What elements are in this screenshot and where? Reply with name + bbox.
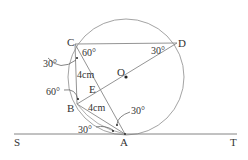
label-c: C — [67, 36, 74, 48]
angle-label-a-lower: 30° — [78, 124, 92, 135]
angle-dot-a-upper — [116, 124, 118, 126]
label-o: O — [117, 66, 125, 78]
geometry-diagram: C D O E B A S T 30° 60° 30° 60° 30° 30° … — [0, 0, 248, 160]
angle-label-c-inner: 60° — [82, 47, 96, 58]
label-a: A — [120, 136, 128, 148]
angle-label-d: 30° — [151, 45, 165, 56]
angle-label-a-upper: 30° — [131, 105, 145, 116]
point-a-dot — [124, 133, 126, 135]
label-e: E — [89, 83, 96, 95]
length-label-cb: 4cm — [77, 69, 94, 80]
angle-label-c-outer: 30° — [43, 58, 57, 69]
label-d: D — [178, 37, 186, 49]
angle-dot-c — [76, 57, 78, 59]
label-b: B — [67, 102, 74, 114]
angle-dot-b — [77, 98, 79, 100]
length-label-ba: 4cm — [88, 102, 105, 113]
angle-label-b: 60° — [46, 86, 60, 97]
segment-cd — [75, 43, 177, 44]
angle-dot-a-lower — [112, 130, 114, 132]
label-t: T — [230, 136, 237, 148]
label-s: S — [14, 136, 20, 148]
